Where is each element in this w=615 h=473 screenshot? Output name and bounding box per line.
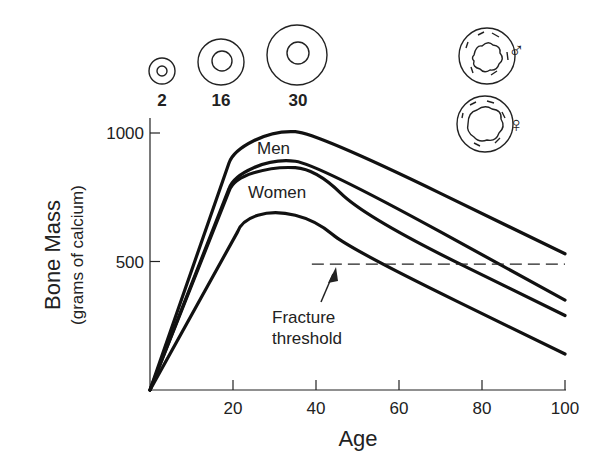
ring-age-30: 30 xyxy=(267,25,327,110)
x-axis-label: Age xyxy=(338,426,377,451)
male-bone-section-icon: ♂ xyxy=(459,28,525,84)
y-axis-sublabel: (grams of calcium) xyxy=(68,185,87,325)
series-line-women-lower xyxy=(150,213,565,390)
annotation-men: Men xyxy=(257,139,290,158)
x-tick-label: 60 xyxy=(390,399,409,418)
y-tick-label: 500 xyxy=(116,253,144,272)
x-tick-label: 20 xyxy=(224,399,243,418)
x-tick-label: 100 xyxy=(551,399,579,418)
bone-mass-chart: 2 16 30 ♂ ♀ 20406080100 5001000 Age Bone… xyxy=(0,0,615,473)
ring-label-16: 16 xyxy=(212,91,231,110)
ring-label-30: 30 xyxy=(289,91,308,110)
x-ticks: 20406080100 xyxy=(224,380,580,418)
ring-age-2: 2 xyxy=(149,58,175,110)
y-axis-label: Bone Mass xyxy=(40,200,65,310)
x-tick-label: 80 xyxy=(473,399,492,418)
series-group xyxy=(150,132,565,390)
ring-label-2: 2 xyxy=(157,91,166,110)
y-ticks: 5001000 xyxy=(106,124,160,272)
threshold-label-line2: threshold xyxy=(272,329,342,348)
female-symbol: ♀ xyxy=(508,112,525,137)
ring-age-16: 16 xyxy=(198,39,244,110)
series-line-men-upper xyxy=(150,132,565,390)
threshold-arrow xyxy=(321,267,338,302)
annotation-women: Women xyxy=(248,183,306,202)
threshold-label-line1: Fracture xyxy=(272,308,335,327)
female-bone-section-icon: ♀ xyxy=(457,96,525,152)
male-symbol: ♂ xyxy=(508,38,525,63)
x-tick-label: 40 xyxy=(307,399,326,418)
y-tick-label: 1000 xyxy=(106,124,144,143)
